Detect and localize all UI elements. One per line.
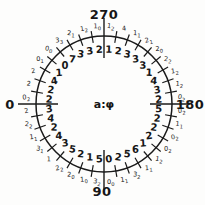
inner-count: 1 (86, 152, 93, 163)
inner-count: 7 (69, 53, 77, 64)
tick-mark (158, 135, 168, 141)
outer-count: 12 (175, 80, 183, 89)
inner-count: 2 (114, 151, 122, 163)
tick-mark (40, 67, 50, 73)
tick-mark (67, 158, 73, 168)
outer-count: 11 (29, 133, 38, 143)
outer-count: 12 (170, 67, 179, 77)
inner-count: 2 (45, 94, 53, 105)
inner-count: 6 (132, 144, 139, 155)
outer-count: 20 (155, 45, 163, 54)
inner-count: 3 (86, 45, 94, 57)
cardinal-label-left: 0 (5, 97, 15, 112)
outer-count: 00 (44, 44, 53, 54)
inner-count: 0 (62, 60, 69, 71)
inner-count: 1 (105, 44, 112, 55)
center-label: a:φ (94, 98, 114, 111)
scanned-figure: 3242221143131522220110532000211532611112… (0, 0, 205, 205)
tick-mark (135, 158, 141, 168)
inner-count: 5 (95, 153, 103, 164)
cardinal-label-bottom: 90 (92, 184, 111, 199)
inner-count: 2 (114, 45, 122, 57)
outer-count: 21 (67, 29, 75, 39)
inner-count: 5 (68, 143, 77, 155)
outer-count: 02 (170, 132, 179, 142)
tick-mark (40, 135, 50, 141)
outer-count: 20 (67, 170, 75, 180)
outer-count: 12 (155, 155, 164, 165)
tick-mark (158, 67, 168, 73)
outer-count: 31 (36, 144, 45, 154)
outer-count: 02 (22, 93, 30, 103)
inner-count: 0 (105, 153, 113, 165)
outer-count: 10 (93, 22, 101, 31)
outer-count: 02 (164, 145, 172, 154)
outer-count: 10 (80, 175, 88, 185)
outer-count: 33 (55, 36, 63, 46)
outer-count: 2 (26, 80, 31, 88)
outer-count: 01 (36, 55, 44, 64)
outer-count: 32 (133, 170, 141, 180)
outer-count: 22 (25, 120, 33, 129)
tick-mark (135, 40, 141, 50)
inner-count: 3 (61, 137, 69, 149)
inner-count: 3 (77, 48, 85, 60)
outer-count: 11 (133, 29, 141, 38)
tick-mark (67, 40, 73, 50)
outer-count: 12 (106, 22, 115, 32)
polar-count-diagram: 3242221143131522220110532000211532611112… (0, 0, 205, 205)
outer-count: 22 (55, 163, 64, 173)
inner-count: 2 (95, 44, 103, 55)
outer-count: 2 (24, 106, 30, 115)
inner-count: 2 (77, 148, 85, 160)
cardinal-label-top: 270 (90, 7, 119, 22)
outer-count: 11 (175, 120, 184, 130)
outer-count: 2 (31, 67, 36, 76)
outer-count: 21 (144, 35, 153, 45)
inner-count: 3 (123, 48, 132, 60)
outer-count: 4 (122, 24, 127, 32)
outer-count: 22 (163, 55, 172, 65)
outer-count: 1 (47, 155, 51, 163)
outer-count: 12 (79, 24, 88, 34)
inner-count: 5 (123, 148, 131, 159)
inner-count: 3 (132, 53, 140, 65)
inner-count: 3 (139, 59, 146, 70)
outer-count: 11 (120, 175, 129, 185)
outer-count: 11 (145, 164, 153, 174)
cardinal-label-right: 180 (176, 97, 205, 112)
